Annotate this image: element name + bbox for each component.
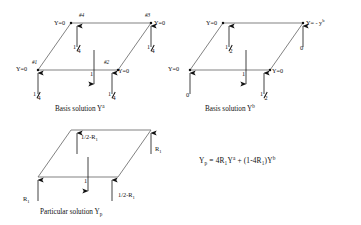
load-label-center: 1 (90, 71, 93, 77)
load-label-node1: 0 (186, 92, 189, 98)
load-label-node3: 1 4 (147, 45, 156, 53)
load-label-node4: 1 2 (225, 45, 234, 53)
fraction-half: 1 2 (225, 45, 234, 53)
node-value-2: Y=0 (118, 68, 129, 74)
node-marker-4 (70, 22, 73, 25)
load-label-node2: 1 2 (260, 92, 269, 100)
load-label-node2: 1 4 (108, 92, 117, 100)
panel-basis-b-geometry (189, 22, 305, 94)
node-marker-1 (189, 69, 192, 72)
fraction-quarter: 1 4 (33, 92, 42, 100)
node-marker-4 (222, 22, 225, 25)
load-label-node1: R1 (23, 196, 30, 202)
node-marker-1 (37, 69, 40, 72)
caption-particular: Particular solution Yp (40, 209, 102, 216)
node-tag-1: #1 (32, 60, 37, 65)
load-label-node4: 1/2-R1 (81, 134, 98, 140)
node-marker-3 (150, 22, 153, 25)
slab-outline (38, 23, 151, 70)
panel-basis-a-geometry (37, 22, 153, 94)
node-value-1: Y=0 (16, 66, 27, 72)
caption-basis-b: Basis solution Yb (205, 106, 255, 114)
load-label-node4: 1 4 (73, 45, 82, 53)
slab-outline (190, 23, 303, 70)
node-marker-2 (269, 69, 272, 72)
node-value-1: Y=0 (168, 66, 179, 72)
node-value-4: Y=0 (206, 20, 217, 26)
fraction-quarter: 1 4 (108, 92, 117, 100)
fraction-quarter: 1 4 (147, 45, 156, 53)
node-tag-4: #4 (79, 13, 84, 18)
node-tag-3: #3 (145, 13, 150, 18)
node-value-4: Y=0 (54, 20, 65, 26)
load-label-node2: 1/2-R1 (118, 192, 135, 198)
solution-equation: Yp = 4R1Ya + (1-4R1)Yb (199, 157, 275, 164)
panel-particular-geometry (38, 130, 151, 201)
load-label-node3: R1 (155, 146, 162, 152)
figure-root: #1 Y=0 #2 Y=0 #3 Y=0 #4 Y=0 1 4 1 4 1 4 … (0, 0, 361, 225)
caption-basis-a: Basis solution Ya (55, 106, 105, 114)
fraction-quarter: 1 4 (73, 45, 82, 53)
node-value-2: Y=0 (272, 68, 283, 74)
load-label-center: 1 (242, 71, 245, 77)
node-value-3: Y=0 (154, 20, 165, 26)
node-value-3: Y= - yb (306, 20, 324, 26)
node-marker-3 (302, 22, 305, 25)
load-label-node1: 1 4 (33, 92, 42, 100)
load-label-node3: 0 (300, 45, 303, 51)
load-label-center: 1 (84, 178, 87, 184)
fraction-half: 1 2 (260, 92, 269, 100)
node-tag-2: #2 (104, 60, 109, 65)
